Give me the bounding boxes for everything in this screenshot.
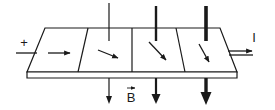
plus-label: +	[20, 35, 28, 50]
field-label: B	[127, 90, 136, 105]
field-arrowhead-weak-icon	[106, 96, 112, 104]
field-arrowhead-strong-icon	[201, 92, 212, 105]
field-arrowhead-medium-icon	[152, 94, 161, 104]
plate-front-edge	[27, 72, 237, 78]
current-label: I	[252, 30, 256, 45]
hall-effect-diagram: + I B	[0, 0, 275, 110]
